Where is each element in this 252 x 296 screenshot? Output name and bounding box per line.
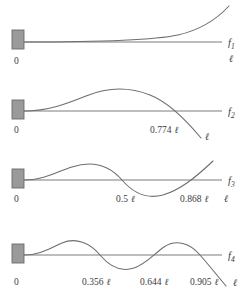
mode-label-4-subscript: 4: [231, 255, 235, 264]
node-tick-value-4-2: 0.905: [190, 277, 212, 287]
origin-label-3: 0: [14, 194, 19, 204]
node-tick-unit-3-1: ℓ: [204, 194, 208, 204]
node-tick-label-3-1: 0.868ℓ: [180, 194, 208, 204]
mode-shape-curve-3: [24, 161, 213, 196]
node-tick-value-2-0: 0.774: [150, 125, 172, 135]
node-tick-label-4-1: 0.644ℓ: [140, 277, 168, 287]
length-label-1: ℓ: [229, 53, 233, 64]
length-label-3: ℓ: [224, 193, 228, 204]
mode-label-3-subscript: 3: [230, 180, 235, 189]
length-label-2: ℓ: [205, 131, 209, 142]
node-tick-unit-4-1: ℓ: [164, 277, 168, 287]
node-tick-unit-2-0: ℓ: [174, 125, 178, 135]
node-tick-value-4-0: 0.356: [82, 277, 104, 287]
node-tick-value-3-1: 0.868: [180, 194, 202, 204]
panel-mode-4: 0 f4 0.356ℓ 0.644ℓ 0.905ℓ ℓ: [12, 241, 237, 288]
node-tick-unit-4-2: ℓ: [214, 277, 218, 287]
fixed-support-block-2: [12, 100, 24, 119]
node-tick-value-3-0: 0.5: [116, 194, 128, 204]
node-tick-unit-4-0: ℓ: [106, 277, 110, 287]
mode-label-4: f4: [228, 250, 235, 264]
node-tick-label-4-0: 0.356ℓ: [82, 277, 110, 287]
node-tick-unit-3-0: ℓ: [131, 194, 135, 204]
origin-label-2: 0: [14, 125, 19, 135]
mode-label-1-subscript: 1: [231, 42, 235, 51]
mode-label-3: f3: [228, 175, 235, 189]
mode-shape-curve-1: [24, 6, 229, 42]
node-tick-label-2-0: 0.774ℓ: [150, 125, 178, 135]
node-tick-value-4-1: 0.644: [140, 277, 162, 287]
node-tick-label-4-2: 0.905ℓ: [190, 277, 218, 287]
fixed-support-block-4: [12, 244, 24, 263]
origin-label-4: 0: [14, 277, 19, 287]
panel-mode-2: 0 f2 0.774ℓ ℓ: [12, 89, 235, 142]
origin-label-1: 0: [14, 56, 19, 66]
mode-label-1: f1: [228, 37, 235, 51]
mode-label-2: f2: [228, 106, 235, 120]
panel-mode-1: 0 f1 ℓ: [12, 6, 235, 66]
node-tick-label-3-0: 0.5ℓ: [116, 194, 135, 204]
fixed-support-block-3: [12, 169, 24, 188]
mode-label-2-subscript: 2: [231, 111, 235, 120]
fixed-support-block-1: [12, 30, 24, 49]
length-label-4: ℓ: [233, 277, 237, 288]
cantilever-mode-shapes-figure: 0 f1 ℓ 0 f2 0.774ℓ ℓ 0 f3 0.5ℓ 0.868ℓ ℓ: [0, 0, 252, 296]
panel-mode-3: 0 f3 0.5ℓ 0.868ℓ ℓ: [12, 161, 235, 204]
